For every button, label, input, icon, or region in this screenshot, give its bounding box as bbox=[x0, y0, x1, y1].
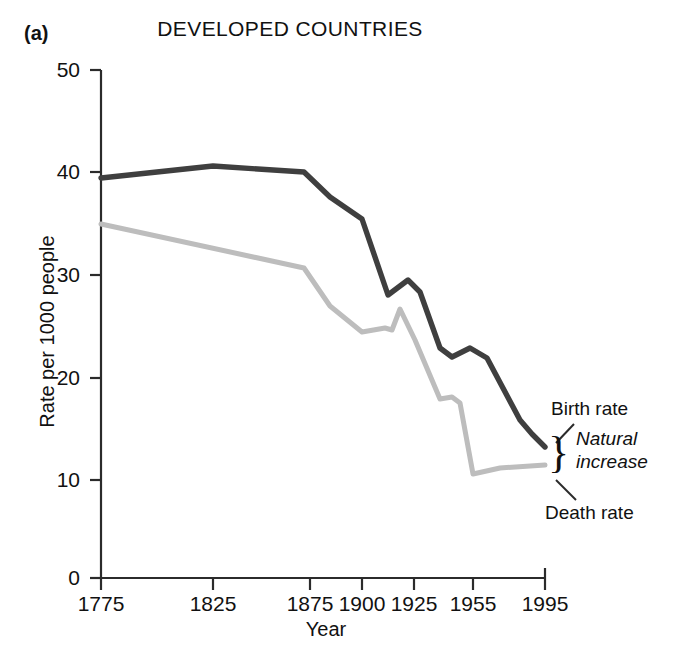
natural-increase-label-line2: increase bbox=[576, 451, 648, 473]
chart-canvas bbox=[0, 0, 678, 655]
y-tick-label-40: 40 bbox=[30, 160, 80, 184]
x-tick-label-1995: 1995 bbox=[505, 592, 585, 616]
y-tick-label-50: 50 bbox=[30, 58, 80, 82]
y-axis-title: Rate per 1000 people bbox=[36, 202, 59, 462]
y-tick-label-10: 10 bbox=[30, 468, 80, 492]
death-rate-leader-line bbox=[556, 480, 576, 500]
x-tick-label-1955: 1955 bbox=[433, 592, 513, 616]
death-rate-line bbox=[101, 224, 545, 474]
birth-rate-label: Birth rate bbox=[551, 398, 628, 420]
x-axis-title: Year bbox=[201, 618, 451, 641]
y-tick-label-0: 0 bbox=[30, 566, 80, 590]
figure-developed-countries: (a) DEVELOPED COUNTRIES bbox=[0, 0, 678, 655]
x-axis-ticks bbox=[101, 70, 545, 590]
death-rate-label: Death rate bbox=[545, 502, 634, 524]
natural-increase-label-line1: Natural bbox=[576, 428, 637, 450]
x-tick-label-1775: 1775 bbox=[61, 592, 141, 616]
x-tick-label-1825: 1825 bbox=[173, 592, 253, 616]
birth-rate-line bbox=[101, 166, 545, 447]
y-axis-ticks bbox=[90, 70, 101, 578]
natural-increase-brace: } bbox=[548, 431, 569, 475]
